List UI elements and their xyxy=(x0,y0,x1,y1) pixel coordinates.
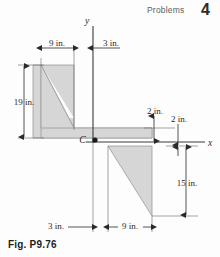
lower-right-triangle xyxy=(108,146,152,216)
y-axis-label: y xyxy=(84,16,90,26)
dimension-label-3in-top: 3 in. xyxy=(103,38,119,48)
figure-caption: Fig. P9.76 xyxy=(8,239,57,250)
figure-page: Problems 4 xyxy=(0,0,220,257)
dimension-bottom-left: 3 in. xyxy=(48,143,108,232)
dimension-label-2in-lower: 2 in. xyxy=(171,114,187,124)
dimension-bottom-right: 9 in. xyxy=(109,216,152,232)
dimension-label-19in: 19 in. xyxy=(14,97,35,107)
figure-diagram: y x C 9 in. 3 in. 19 in. xyxy=(0,0,220,257)
centroid-dot xyxy=(92,137,97,142)
dimension-label-15in: 15 in. xyxy=(177,178,198,188)
dimension-label-3in-bottom: 3 in. xyxy=(48,221,64,231)
x-axis-label: x xyxy=(207,138,213,148)
centroid-label: C xyxy=(79,134,86,145)
dimension-lower-thickness: 2 in. xyxy=(166,114,198,156)
dimension-label-2in-upper: 2 in. xyxy=(147,106,163,116)
dimension-label-9in-bottom: 9 in. xyxy=(122,221,138,231)
dimension-top-gap: 3 in. xyxy=(93,38,120,48)
dimension-label-9in-top: 9 in. xyxy=(49,38,65,48)
dimension-right-depth: 15 in. xyxy=(152,147,198,216)
